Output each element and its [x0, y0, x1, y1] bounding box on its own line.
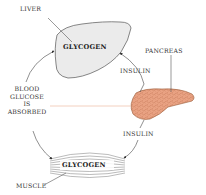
muscle-leader-line [44, 173, 66, 185]
arrow-to-muscle [33, 131, 52, 159]
arrow-to-liver [26, 51, 54, 82]
blood-glucose-line3: IS [4, 100, 50, 108]
pancreas-shape [131, 89, 194, 120]
muscle-glycogen-label: GLYCOGEN [62, 162, 106, 170]
liver-glycogen-label: GLYCOGEN [63, 44, 107, 52]
blood-glucose-label: BLOOD GLUCOSE IS ABSORBED [4, 85, 50, 115]
insulin-bottom-label: INSULIN [123, 130, 154, 138]
blood-glucose-line4: ABSORBED [4, 108, 50, 116]
insulin-top-label: INSULIN [120, 67, 151, 75]
arrow-insulin-to-muscle [124, 140, 138, 158]
blood-glucose-line2: GLUCOSE [4, 93, 50, 101]
pancreas-to-insulin-bottom [140, 120, 144, 128]
blood-glucose-line1: BLOOD [4, 85, 50, 93]
glycogen-insulin-diagram: LIVER GLYCOGEN PANCREAS INSULIN BLOOD GL… [0, 0, 206, 195]
liver-label: LIVER [20, 5, 41, 13]
muscle-label: MUSCLE [16, 182, 46, 190]
pancreas-label: PANCREAS [145, 47, 183, 55]
